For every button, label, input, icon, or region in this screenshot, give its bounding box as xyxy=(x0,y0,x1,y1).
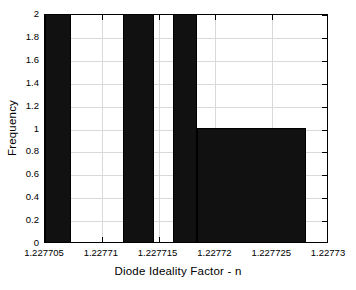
x-tick-mark xyxy=(102,237,103,242)
gridline-vertical xyxy=(159,15,160,242)
plot-area xyxy=(44,14,328,243)
y-tick-mark xyxy=(322,15,327,16)
y-tick-mark xyxy=(322,175,327,176)
y-tick-label: 0.4 xyxy=(1,192,39,202)
y-tick-mark xyxy=(322,84,327,85)
x-tick-mark xyxy=(102,15,103,20)
y-tick-label: 0.2 xyxy=(1,215,39,225)
histogram-bar xyxy=(45,14,71,242)
y-tick-mark xyxy=(322,221,327,222)
x-tick-mark xyxy=(159,237,160,242)
y-tick-mark xyxy=(322,107,327,108)
y-tick-mark xyxy=(322,61,327,62)
x-tick-label: 1.22773 xyxy=(293,247,356,258)
x-axis-title: Diode Ideality Factor - n xyxy=(0,265,356,277)
y-tick-mark xyxy=(322,130,327,131)
histogram-bar xyxy=(123,14,154,242)
y-tick-label: 1.6 xyxy=(1,55,39,65)
x-tick-mark xyxy=(215,15,216,20)
y-tick-mark xyxy=(322,38,327,39)
histogram-figure: 00.20.40.60.811.21.41.61.82 1.2277051.22… xyxy=(0,0,356,290)
x-tick-mark xyxy=(272,15,273,20)
y-tick-mark xyxy=(322,152,327,153)
y-tick-label: 1.8 xyxy=(1,32,39,42)
y-tick-mark xyxy=(322,198,327,199)
histogram-bar xyxy=(173,14,197,242)
gridline-vertical xyxy=(102,15,103,242)
y-axis-title: Frequency xyxy=(6,68,18,188)
histogram-bar xyxy=(197,128,306,243)
y-tick-label: 2 xyxy=(1,9,39,19)
x-tick-mark xyxy=(159,15,160,20)
